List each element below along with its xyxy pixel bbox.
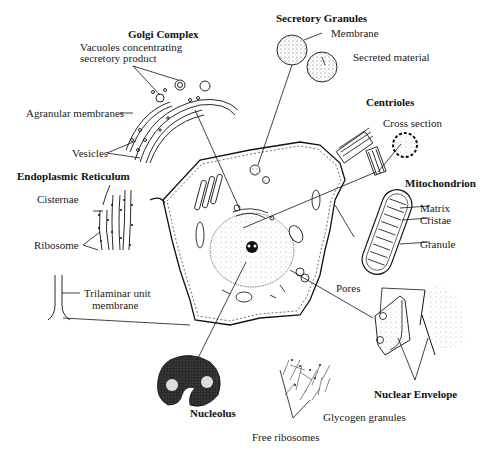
cross-section-label: Cross section bbox=[383, 117, 442, 129]
pores-label: Pores bbox=[336, 282, 360, 294]
secretory-product-label: secretory product bbox=[80, 52, 157, 64]
er-detail bbox=[98, 185, 133, 250]
golgi-complex-detail bbox=[126, 80, 238, 163]
nuclear-envelope-title: Nuclear Envelope bbox=[374, 388, 457, 400]
mitochondrion-title: Mitochondrion bbox=[405, 177, 476, 189]
nucleolus-title: Nucleolus bbox=[190, 407, 236, 419]
centrioles-detail bbox=[336, 128, 417, 175]
agranular-membranes-label: Agranular membranes bbox=[26, 107, 124, 119]
centrioles-title: Centrioles bbox=[366, 96, 414, 108]
granule-label: Granule bbox=[420, 238, 455, 250]
free-ribosomes-label: Free ribosomes bbox=[252, 431, 320, 443]
cisternae-label: Cisternae bbox=[37, 193, 79, 205]
glycogen-granules-label: Glycogen granules bbox=[323, 411, 406, 423]
cristae-label: Cristae bbox=[420, 214, 451, 226]
nucleolus-detail bbox=[157, 355, 220, 406]
membrane-unit-label: membrane bbox=[92, 299, 138, 311]
membrane-label: Membrane bbox=[331, 27, 379, 39]
er-title: Endoplasmic Reticulum bbox=[17, 170, 130, 182]
secreted-material-label: Secreted material bbox=[353, 51, 430, 63]
golgi-complex-title: Golgi Complex bbox=[128, 28, 199, 40]
trilaminar-membrane-detail bbox=[48, 275, 70, 320]
secretory-granules-title: Secretory Granules bbox=[276, 12, 367, 24]
secretory-granules-detail bbox=[277, 35, 337, 82]
trilaminar-label: Trilaminar unit bbox=[84, 287, 151, 299]
nuclear-envelope-detail bbox=[375, 287, 465, 355]
matrix-label: Matrix bbox=[420, 202, 450, 214]
vesicles-label: Vesicles bbox=[72, 147, 108, 159]
glycogen-detail bbox=[283, 359, 330, 400]
cell-diagram: Golgi Complex Vacuoles concentrating sec… bbox=[0, 0, 485, 455]
cell-illustration bbox=[0, 0, 485, 455]
ribosome-label: Ribosome bbox=[34, 239, 79, 251]
mitochondrion-detail bbox=[358, 186, 416, 279]
